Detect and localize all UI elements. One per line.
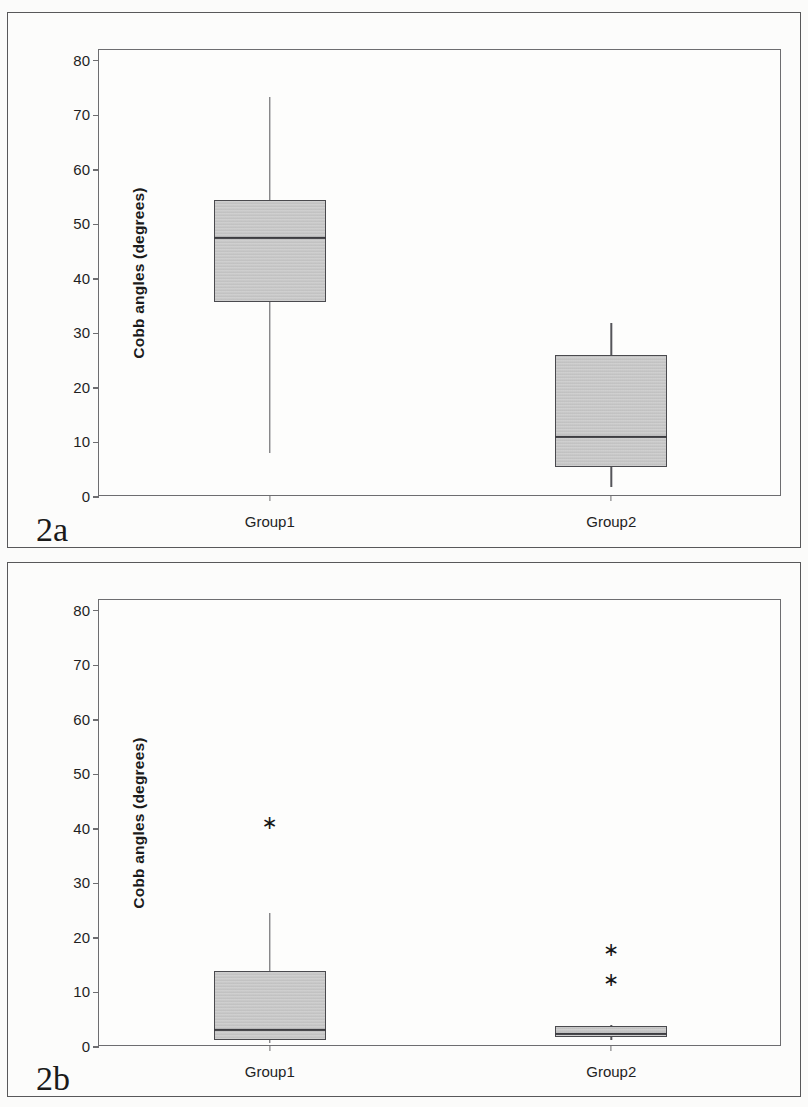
y-axis-tick-mark [93,610,99,611]
y-axis-tick-label: 40 [73,269,90,289]
y-axis-tick-mark [93,774,99,775]
y-axis-tick-mark [93,333,99,334]
box-median-line [214,236,326,238]
y-axis-tick-label: 10 [73,432,90,452]
y-axis-tick-mark [93,828,99,829]
y-axis-tick-label: 10 [73,982,90,1002]
box-whisker-upper [269,97,270,200]
y-axis-tick-label: 50 [73,214,90,234]
x-axis-tick-label: Group2 [586,1063,636,1080]
y-axis-tick-mark [93,387,99,388]
box-rect [214,200,326,302]
plot-area-2a: 01020304050607080Group1Group2 [99,50,780,495]
box-whisker-lower [269,1040,270,1043]
outlier-marker: ∗ [603,939,619,958]
box-whisker-lower [611,1037,612,1041]
box-median-line [555,1033,667,1035]
x-axis-tick-label: Group1 [245,1063,295,1080]
y-axis-tick-mark [93,115,99,116]
y-axis-tick-label: 20 [73,378,90,398]
y-axis-tick-mark [93,937,99,938]
y-axis-tick-label: 80 [73,601,90,621]
plot-frame-2b: Cobb angles (degrees) 01020304050607080G… [98,599,781,1046]
y-axis-tick-label: 30 [73,323,90,343]
y-axis-tick-label: 40 [73,819,90,839]
y-axis-tick-mark [93,278,99,279]
y-axis-tick-label: 60 [73,710,90,730]
y-axis-tick-mark [93,496,99,497]
y-axis-tick-mark [93,442,99,443]
y-axis-tick-mark [93,665,99,666]
box-whisker-upper [611,323,612,355]
box-median-line [214,1029,326,1031]
figure-panel-2a: Cobb angles (degrees) 01020304050607080G… [7,12,801,548]
plot-area-2b: 01020304050607080Group1Group2∗∗∗ [99,600,780,1045]
box-median-line [555,436,667,438]
panel-caption-2a: 2a [36,511,68,549]
y-axis-tick-label: 0 [82,487,90,507]
x-axis-tick-label: Group1 [245,513,295,530]
figure-panel-2b: Cobb angles (degrees) 01020304050607080G… [7,562,801,1097]
y-axis-tick-label: 70 [73,655,90,675]
y-axis-tick-label: 50 [73,764,90,784]
y-axis-tick-mark [93,719,99,720]
figure-container: Cobb angles (degrees) 01020304050607080G… [0,0,808,1107]
y-axis-tick-label: 80 [73,51,90,71]
y-axis-tick-mark [93,992,99,993]
y-axis-tick-mark [93,1046,99,1047]
panel-caption-2b: 2b [36,1060,70,1098]
y-axis-tick-label: 60 [73,160,90,180]
y-axis-tick-label: 30 [73,873,90,893]
plot-frame-2a: Cobb angles (degrees) 01020304050607080G… [98,49,781,496]
x-axis-tick-mark [611,1045,612,1051]
box-whisker-upper [269,913,270,971]
y-axis-tick-mark [93,60,99,61]
y-axis-tick-mark [93,224,99,225]
y-axis-tick-mark [93,169,99,170]
box-whisker-lower [269,302,270,454]
box-whisker-lower [611,467,612,487]
x-axis-tick-mark [611,495,612,501]
outlier-marker: ∗ [262,813,278,832]
x-axis-tick-label: Group2 [586,513,636,530]
box-rect [555,1026,667,1036]
y-axis-tick-mark [93,883,99,884]
box-rect [555,355,667,467]
y-axis-tick-label: 20 [73,928,90,948]
x-axis-tick-mark [269,1045,270,1051]
outlier-marker: ∗ [603,970,619,989]
y-axis-tick-label: 0 [82,1037,90,1057]
x-axis-tick-mark [269,495,270,501]
y-axis-tick-label: 70 [73,105,90,125]
